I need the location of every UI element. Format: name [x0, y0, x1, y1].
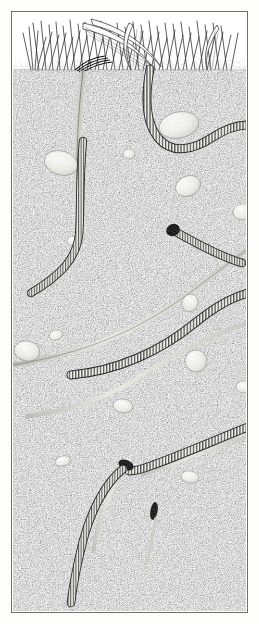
illustration-frame — [11, 11, 248, 613]
grass-layer — [13, 13, 246, 73]
illustration-plate — [13, 13, 246, 611]
earthworm-soil-illustration — [13, 13, 246, 611]
soil-overlay-grain — [13, 65, 246, 611]
figure-container — [0, 0, 259, 624]
